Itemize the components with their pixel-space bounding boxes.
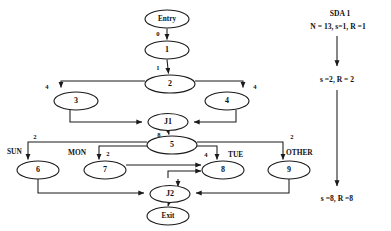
node-exit-label: Exit — [162, 212, 175, 220]
node-exit[interactable]: Exit — [147, 207, 189, 225]
sda-title: SDA 1 — [330, 9, 351, 18]
node-2-label: 2 — [168, 79, 172, 88]
node-1[interactable]: 1 — [145, 41, 189, 59]
branch-label-sun: SUN — [7, 147, 22, 156]
node-3[interactable]: 3 — [54, 92, 98, 110]
edge-label-2-to-4: 4 — [253, 83, 257, 90]
edge-8-feedback — [168, 171, 201, 178]
control-flow-diagram: Entry 1 2 3 4 J1 — [0, 0, 391, 231]
node-5[interactable]: 5 — [147, 136, 197, 154]
edge-1-to-2 — [167, 60, 169, 74]
edge-label-entry-to-1: 0 — [156, 30, 160, 37]
edge-label-5-to-7: 2 — [106, 150, 110, 157]
edge-2-to-3 — [61, 81, 145, 88]
edge-label-5-to-6: 2 — [33, 133, 37, 140]
branch-label-mon: MON — [68, 148, 87, 157]
node-6-label: 6 — [36, 165, 40, 174]
edge-9-to-j2 — [196, 179, 289, 193]
edge-j1-to-5 — [168, 131, 169, 135]
node-8-label: 8 — [221, 165, 225, 174]
node-9[interactable]: 9 — [268, 161, 310, 179]
sda-line-1: N = 13, s=1, R =1 — [310, 22, 366, 31]
node-1-label: 1 — [165, 45, 169, 54]
node-j2-label: J2 — [166, 189, 174, 198]
node-entry-label: Entry — [158, 15, 176, 23]
sda-line-3: s =8, R =8 — [321, 194, 353, 203]
edge-3-to-j1 — [70, 110, 142, 122]
edge-label-5-to-9: 2 — [290, 133, 294, 140]
node-4[interactable]: 4 — [205, 92, 249, 110]
node-7[interactable]: 7 — [84, 161, 126, 179]
node-j2[interactable]: J2 — [150, 186, 190, 203]
branch-label-tue: TUE — [228, 150, 243, 159]
node-j1[interactable]: J1 — [148, 114, 188, 131]
edge-label-2-to-3: 4 — [45, 83, 49, 90]
edge-label-1-to-2: 1 — [156, 64, 159, 71]
edge-6-to-j2 — [38, 179, 144, 193]
flowchart-canvas: Entry 1 2 3 4 J1 — [0, 0, 391, 231]
node-2[interactable]: 2 — [145, 75, 195, 93]
node-j1-label: J1 — [164, 117, 172, 126]
edge-2-to-4 — [195, 81, 243, 88]
edge-4-to-j1 — [194, 110, 236, 122]
side-panel-group: SDA 1 N = 13, s=1, R =1 s =2, R = 2 s =8… — [310, 9, 366, 203]
node-6[interactable]: 6 — [17, 161, 59, 179]
node-5-label: 5 — [170, 140, 174, 149]
node-7-label: 7 — [103, 165, 107, 174]
node-3-label: 3 — [74, 96, 78, 105]
node-8[interactable]: 8 — [202, 161, 244, 179]
edge-5-to-6 — [28, 142, 147, 160]
edge-label-5-to-8: 4 — [204, 151, 208, 158]
sda-line-2: s =2, R = 2 — [320, 75, 354, 84]
node-9-label: 9 — [287, 165, 291, 174]
branch-label-other: OTHER — [286, 148, 313, 157]
node-entry[interactable]: Entry — [145, 10, 189, 28]
node-4-label: 4 — [225, 96, 229, 105]
